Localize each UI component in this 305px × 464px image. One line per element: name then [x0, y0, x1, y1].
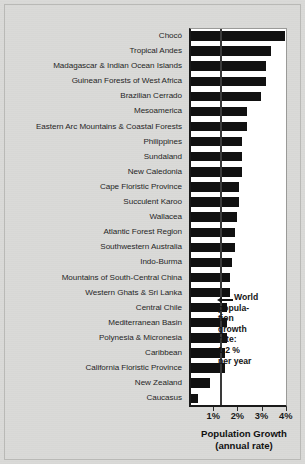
bar-row — [191, 104, 286, 119]
bar — [191, 273, 230, 282]
category-label: Polynesia & Micronesia — [8, 330, 186, 345]
bar-row — [191, 391, 286, 406]
bar — [191, 61, 266, 70]
bar — [191, 197, 239, 206]
bar-row — [191, 150, 286, 165]
category-label: Tropical Andes — [8, 43, 186, 58]
bar-row — [191, 44, 286, 59]
axis-tick-label: 1% — [206, 411, 219, 421]
bar — [191, 182, 239, 191]
category-label: Wallacea — [8, 209, 186, 224]
category-label-column: ChocóTropical AndesMadagascar & Indian O… — [8, 28, 186, 405]
bar-row — [191, 59, 286, 74]
bar — [191, 122, 247, 131]
category-label: California Floristic Province — [8, 360, 186, 375]
bar-row — [191, 210, 286, 225]
bar — [191, 212, 237, 221]
annotation-line: popula- — [218, 303, 288, 314]
bar-row — [191, 376, 286, 391]
bar — [191, 107, 247, 116]
category-label: Sundaland — [8, 149, 186, 164]
category-label: Philippines — [8, 134, 186, 149]
bar-row — [191, 120, 286, 135]
bar — [191, 378, 210, 387]
category-label: Cape Floristic Province — [8, 179, 186, 194]
category-label: Eastern Arc Mountains & Coastal Forests — [8, 119, 186, 134]
category-label: Mountains of South-Central China — [8, 270, 186, 285]
bar — [191, 46, 271, 55]
axis-tick-label: 2% — [231, 411, 244, 421]
bar — [191, 258, 232, 267]
bar-row — [191, 74, 286, 89]
bar-row — [191, 180, 286, 195]
bar — [191, 137, 242, 146]
annotation-line: per year — [218, 356, 288, 367]
annotation-line: tion — [218, 313, 288, 324]
category-label: Mediterranean Basin — [8, 315, 186, 330]
category-label: Brazilian Cerrado — [8, 88, 186, 103]
category-label: Central Chile — [8, 300, 186, 315]
bar-row — [191, 255, 286, 270]
annotation-line: rate: — [218, 334, 288, 345]
bar-row — [191, 195, 286, 210]
bar — [191, 77, 266, 86]
bar — [191, 92, 261, 101]
reference-line-annotation: Worldpopula-tiongrowthrate:1.2 %per year — [218, 292, 288, 366]
category-label: Madagascar & Indian Ocean Islands — [8, 58, 186, 73]
x-axis-title: Population Growth (annual rate) — [186, 428, 302, 451]
annotation-line: World — [218, 292, 288, 303]
annotation-line: 1.2 % — [218, 345, 288, 356]
category-label: New Zealand — [8, 375, 186, 390]
population-growth-bar-chart: ChocóTropical AndesMadagascar & Indian O… — [0, 0, 305, 464]
bar-row — [191, 240, 286, 255]
page-background: ChocóTropical AndesMadagascar & Indian O… — [0, 0, 305, 464]
bar — [191, 167, 242, 176]
bar-row — [191, 225, 286, 240]
category-label: Western Ghats & Sri Lanka — [8, 285, 186, 300]
category-label: Caucasus — [8, 390, 186, 405]
x-axis-title-main: Population Growth — [186, 428, 302, 440]
category-label: Guinean Forests of West Africa — [8, 73, 186, 88]
category-label: Indo-Burma — [8, 254, 186, 269]
category-label: Mesoamerica — [8, 103, 186, 118]
bar — [191, 394, 198, 403]
bar-row — [191, 135, 286, 150]
bar-row — [191, 29, 286, 44]
bar-row — [191, 271, 286, 286]
annotation-line: growth — [218, 324, 288, 335]
bar-row — [191, 165, 286, 180]
bar — [191, 243, 235, 252]
category-label: New Caledonia — [8, 164, 186, 179]
category-label: Chocó — [8, 28, 186, 43]
category-label: Caribbean — [8, 345, 186, 360]
bar — [191, 228, 235, 237]
category-label: Atlantic Forest Region — [8, 224, 186, 239]
bar — [191, 152, 242, 161]
x-axis-title-sub: (annual rate) — [186, 440, 302, 452]
axis-tick-label: 3% — [255, 411, 268, 421]
category-label: Succulent Karoo — [8, 194, 186, 209]
bar-row — [191, 89, 286, 104]
category-label: Southwestern Australia — [8, 239, 186, 254]
bar — [191, 31, 285, 40]
x-axis-tick-labels: 1%2%3%4% — [189, 411, 299, 424]
axis-tick-label: 4% — [279, 411, 292, 421]
